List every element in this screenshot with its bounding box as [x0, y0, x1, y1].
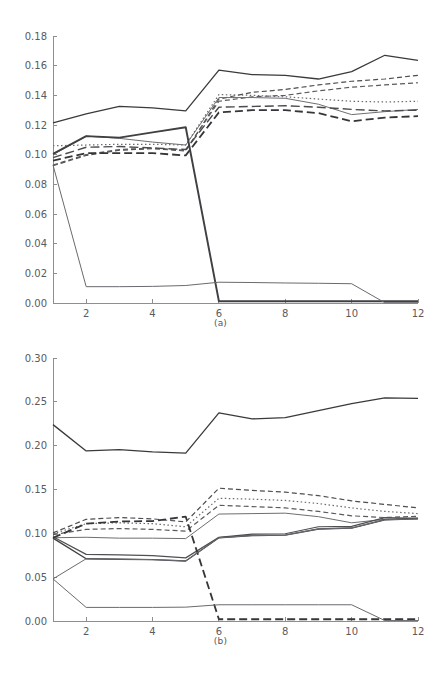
y-axis-tick-label: 0.00 [25, 616, 47, 627]
y-axis-tick-label: 0.05 [25, 572, 47, 583]
chart-b-svg: 0.000.050.100.150.200.250.3024681012 [0, 340, 441, 678]
chart-a-svg: 0.000.020.040.060.080.100.120.140.160.18… [0, 0, 441, 340]
series-line [53, 505, 418, 534]
y-axis-tick-label: 0.00 [25, 298, 47, 309]
series-line [53, 110, 418, 160]
y-axis-tick-label: 0.04 [25, 238, 47, 249]
chart-panel-a: 0.000.020.040.060.080.100.120.140.160.18… [0, 0, 441, 340]
figure-container: 0.000.020.040.060.080.100.120.140.160.18… [0, 0, 441, 678]
y-axis-tick-label: 0.16 [25, 60, 47, 71]
series-line [53, 75, 418, 165]
series-line [53, 488, 418, 533]
series-line [53, 579, 418, 621]
y-axis-tick-label: 0.14 [25, 90, 47, 101]
y-axis-tick-label: 0.10 [25, 528, 47, 539]
series-line [53, 165, 418, 303]
caption-a: (a) [0, 318, 441, 328]
y-axis-tick-label: 0.25 [25, 396, 47, 407]
y-axis-tick-label: 0.02 [25, 268, 47, 279]
series-line [53, 519, 418, 579]
y-axis-tick-label: 0.18 [25, 31, 47, 42]
series-line [53, 517, 418, 620]
y-axis-tick-label: 0.06 [25, 209, 47, 220]
y-axis-tick-label: 0.12 [25, 120, 47, 131]
series-line [53, 95, 418, 146]
series-line [53, 55, 418, 122]
series-line [53, 398, 418, 453]
chart-panel-b: 0.000.050.100.150.200.250.3024681012 (b) [0, 340, 441, 678]
y-axis-tick-label: 0.08 [25, 179, 47, 190]
y-axis-tick-label: 0.20 [25, 440, 47, 451]
y-axis-tick-label: 0.30 [25, 353, 47, 364]
y-axis-tick-label: 0.15 [25, 484, 47, 495]
caption-b: (b) [0, 636, 441, 646]
y-axis-tick-label: 0.10 [25, 149, 47, 160]
